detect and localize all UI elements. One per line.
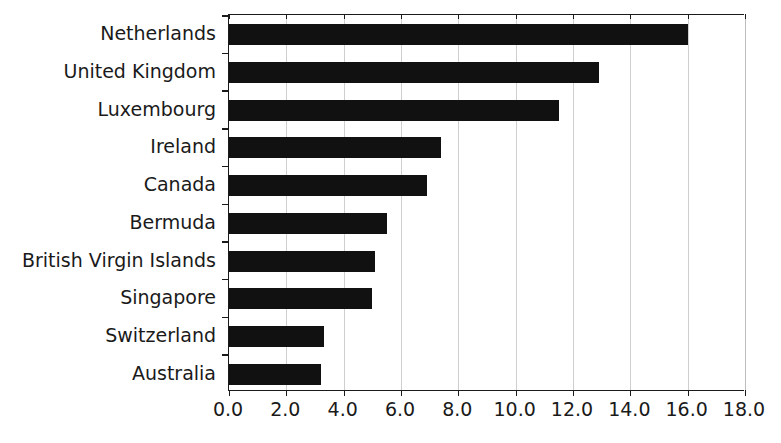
bars — [229, 15, 744, 390]
y-axis-tick — [222, 90, 229, 92]
y-axis-tick — [222, 204, 229, 206]
x-axis-tick-label: 12.0 — [542, 396, 602, 422]
value-axis-labels: 0.02.04.06.08.010.012.014.016.018.0 — [0, 396, 781, 436]
category-label: Switzerland — [0, 325, 222, 346]
y-axis-tick — [222, 354, 229, 356]
category-axis-labels: NetherlandsUnited KingdomLuxembourgIrela… — [0, 14, 222, 391]
category-label: Luxembourg — [0, 99, 222, 120]
bar — [229, 175, 427, 196]
bar — [229, 288, 372, 309]
x-axis-tick-label: 16.0 — [657, 396, 717, 422]
y-axis-tick — [222, 241, 229, 243]
category-label: Australia — [0, 363, 222, 384]
x-axis-tick-top — [745, 14, 746, 19]
y-axis-tick — [222, 317, 229, 319]
bar — [229, 364, 321, 385]
bar — [229, 137, 441, 158]
category-label: Ireland — [0, 136, 222, 157]
y-axis-tick — [222, 166, 229, 168]
bar-chart: NetherlandsUnited KingdomLuxembourgIrela… — [0, 0, 781, 443]
x-axis-tick-label: 4.0 — [313, 396, 373, 422]
x-axis-tick-label: 18.0 — [714, 396, 774, 422]
category-label: United Kingdom — [0, 61, 222, 82]
category-label: Netherlands — [0, 23, 222, 44]
bar — [229, 24, 688, 45]
x-axis-tick-label: 6.0 — [370, 396, 430, 422]
y-axis-tick — [222, 279, 229, 281]
plot-area — [228, 14, 744, 391]
bar — [229, 100, 559, 121]
y-axis-tick — [222, 128, 229, 130]
bar — [229, 213, 387, 234]
x-axis-tick-label: 8.0 — [427, 396, 487, 422]
category-label: Canada — [0, 174, 222, 195]
x-axis-tick-label: 0.0 — [198, 396, 258, 422]
x-axis-tick-label: 10.0 — [485, 396, 545, 422]
x-axis-tick-label: 2.0 — [255, 396, 315, 422]
bar — [229, 62, 599, 83]
bar — [229, 251, 375, 272]
y-axis-tick — [222, 15, 229, 17]
x-axis-tick-label: 14.0 — [599, 396, 659, 422]
category-label: Singapore — [0, 287, 222, 308]
bar — [229, 326, 324, 347]
category-label: British Virgin Islands — [0, 250, 222, 271]
category-label: Bermuda — [0, 212, 222, 233]
gridline — [745, 15, 746, 390]
y-axis-tick — [222, 53, 229, 55]
